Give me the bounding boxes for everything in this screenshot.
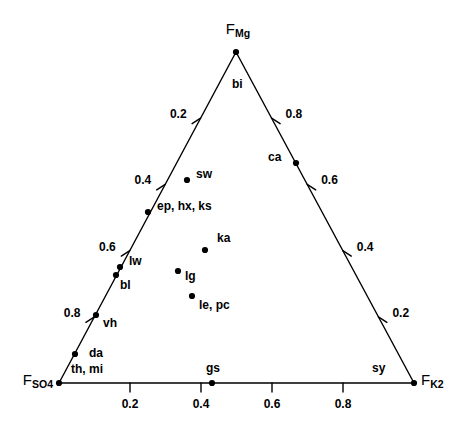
- corner-label-fso4-subscript: SO4: [32, 378, 53, 390]
- data-point-bi: [233, 49, 239, 55]
- data-point-ca: [293, 160, 299, 166]
- corner-label-fk2-base: F: [421, 371, 430, 388]
- tick-label-bottom-0.4: 0.4: [193, 398, 210, 410]
- data-point-ka: [202, 247, 208, 253]
- point-label-da: da: [89, 347, 103, 359]
- data-point-ep-hx-ks: [145, 209, 151, 215]
- point-label-lw: lw: [129, 255, 142, 267]
- tick-label-right-0.4: 0.4: [357, 241, 374, 253]
- data-point-sw: [184, 177, 190, 183]
- tick-label-bottom-0.6: 0.6: [264, 398, 281, 410]
- triangle-right-edge: [236, 52, 414, 383]
- data-point-da: [72, 351, 78, 357]
- point-label-ep-hx-ks: ep, hx, ks: [157, 200, 212, 212]
- tick-label-bottom-0.8: 0.8: [335, 398, 352, 410]
- tick-label-bottom-0.2: 0.2: [122, 398, 139, 410]
- point-label-ca: ca: [268, 151, 281, 163]
- tick-label-left-0.6: 0.6: [99, 241, 116, 253]
- tick-label-left-0.2: 0.2: [170, 108, 187, 120]
- corner-label-fk2-subscript: K2: [430, 378, 443, 390]
- data-points: [56, 49, 417, 386]
- point-label-th-mi: th, mi: [71, 363, 103, 375]
- data-point-lw: [117, 264, 123, 270]
- corner-label-fk2: FK2: [421, 372, 444, 387]
- corner-label-fso4-base: F: [23, 371, 32, 388]
- point-label-bi: bi: [232, 78, 243, 90]
- point-label-lg: lg: [185, 270, 196, 282]
- point-label-ka: ka: [217, 232, 230, 244]
- corner-label-fso4: FSO4: [23, 372, 53, 387]
- point-label-le-pc: le, pc: [199, 299, 230, 311]
- apex-label-fmg: FMg: [226, 21, 250, 36]
- data-point-th-mi: [56, 380, 62, 386]
- point-label-sw: sw: [196, 168, 212, 180]
- data-point-lg: [175, 268, 181, 274]
- data-point-gs: [209, 380, 215, 386]
- tick-label-left-0.8: 0.8: [64, 307, 81, 319]
- point-label-gs: gs: [206, 362, 220, 374]
- point-label-bl: bl: [120, 279, 131, 291]
- apex-label-fmg-base: F: [226, 20, 235, 37]
- apex-label-fmg-subscript: Mg: [235, 27, 250, 39]
- data-point-bl: [113, 272, 119, 278]
- ternary-diagram: 0.20.40.60.80.80.60.40.20.20.40.60.8bisw…: [0, 0, 475, 441]
- triangle-outline: [59, 52, 414, 383]
- point-label-sy: sy: [372, 362, 385, 374]
- tick-label-right-0.2: 0.2: [392, 307, 409, 319]
- tick-label-right-0.8: 0.8: [286, 108, 303, 120]
- tick-label-left-0.4: 0.4: [135, 174, 152, 186]
- tick-label-right-0.6: 0.6: [321, 174, 338, 186]
- point-label-vh: vh: [103, 317, 117, 329]
- data-point-vh: [93, 312, 99, 318]
- data-point-sy: [411, 380, 417, 386]
- data-point-le-pc: [189, 293, 195, 299]
- triangle-left-edge: [59, 52, 236, 383]
